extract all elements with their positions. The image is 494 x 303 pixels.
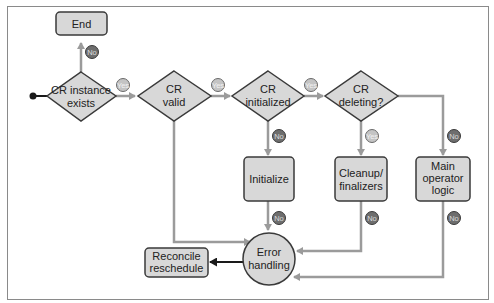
svg-text:Yes: Yes	[305, 81, 317, 90]
flowchart: End CR instance exists CR valid CR initi…	[0, 0, 494, 303]
edge-deleting-main	[398, 96, 443, 155]
svg-text:exists: exists	[67, 97, 96, 109]
badge-no-initialized: No	[273, 130, 286, 143]
svg-text:CR instance: CR instance	[51, 84, 111, 96]
svg-text:Yes: Yes	[366, 132, 378, 141]
node-end: End	[56, 12, 107, 35]
badge-no-exists: No	[86, 46, 99, 59]
svg-text:CR: CR	[260, 83, 276, 95]
svg-text:initialized: initialized	[245, 96, 290, 108]
badge-yes-initialized: Yes	[305, 79, 318, 92]
start-dot	[30, 93, 37, 100]
svg-text:Main: Main	[431, 160, 455, 172]
node-cr-initialized: CR initialized	[232, 71, 304, 121]
svg-text:operator: operator	[423, 172, 464, 184]
badge-no-main: No	[448, 212, 461, 225]
svg-text:No: No	[274, 132, 284, 141]
svg-text:No: No	[274, 214, 284, 223]
node-cr-instance-exists: CR instance exists	[47, 72, 116, 121]
svg-text:Yes: Yes	[117, 81, 129, 90]
node-main-operator-logic: Main operator logic	[416, 157, 470, 201]
svg-text:CR: CR	[353, 83, 369, 95]
svg-text:valid: valid	[163, 96, 186, 108]
badge-yes-exists: Yes	[117, 79, 130, 92]
badge-no-deleting: No	[448, 130, 461, 143]
badge-yes-deleting: Yes	[366, 130, 379, 143]
node-cleanup-finalizers: Cleanup/ finalizers	[335, 157, 387, 201]
edge-cleanup-error	[297, 201, 361, 251]
svg-text:handling: handling	[248, 259, 290, 271]
svg-text:deleting?: deleting?	[339, 96, 384, 108]
svg-text:Cleanup/: Cleanup/	[339, 167, 384, 179]
svg-text:CR: CR	[166, 83, 182, 95]
svg-text:Yes: Yes	[212, 81, 224, 90]
badge-no-initialize: No	[273, 212, 286, 225]
svg-text:Error: Error	[257, 246, 282, 258]
edge-valid-error	[174, 121, 250, 242]
svg-text:End: End	[72, 18, 92, 30]
svg-text:reschedule: reschedule	[150, 262, 204, 274]
svg-text:No: No	[449, 214, 459, 223]
node-reconcile-reschedule: Reconcile reschedule	[145, 248, 208, 277]
svg-text:finalizers: finalizers	[339, 180, 383, 192]
node-cr-valid: CR valid	[138, 71, 211, 121]
badge-no-cleanup: No	[366, 212, 379, 225]
svg-text:Initialize: Initialize	[249, 173, 289, 185]
svg-text:No: No	[87, 48, 97, 57]
svg-text:Reconcile: Reconcile	[152, 250, 200, 262]
svg-text:No: No	[449, 132, 459, 141]
node-initialize: Initialize	[244, 157, 294, 201]
svg-text:No: No	[367, 214, 377, 223]
svg-text:logic: logic	[432, 184, 455, 196]
badge-yes-valid: Yes	[212, 79, 225, 92]
node-error-handling: Error handling	[243, 233, 295, 285]
node-cr-deleting: CR deleting?	[325, 71, 398, 121]
